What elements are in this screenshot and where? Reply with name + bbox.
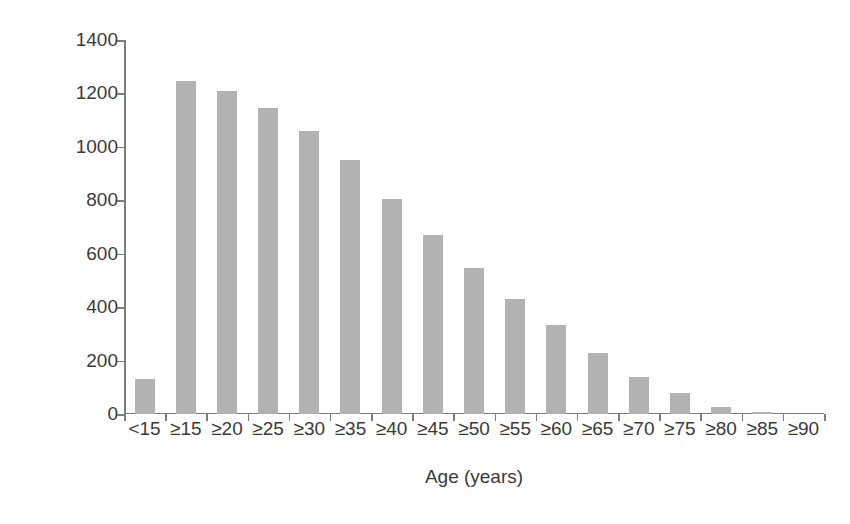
y-axis-tick-mark <box>117 254 124 256</box>
y-axis-tick-label: 800 <box>40 189 118 211</box>
bar <box>382 199 402 414</box>
y-axis-tick-mark <box>117 93 124 95</box>
x-axis-tick-mark <box>824 414 826 421</box>
x-axis-tick-label: ≥75 <box>664 418 696 440</box>
x-axis-tick-label: ≥45 <box>417 418 449 440</box>
bar <box>752 412 772 414</box>
x-axis-tick-label: ≥20 <box>211 418 243 440</box>
x-axis-tick-label: ≥50 <box>458 418 490 440</box>
x-axis-tick-label: ≥55 <box>499 418 531 440</box>
x-axis-tick-label: ≥40 <box>376 418 408 440</box>
x-axis-tick-label: ≥80 <box>705 418 737 440</box>
x-axis-tick-label: ≥25 <box>252 418 284 440</box>
bar <box>464 268 484 414</box>
bar <box>258 108 278 414</box>
y-axis-tick-label: 1000 <box>40 136 118 158</box>
y-axis-tick-label: 1400 <box>40 29 118 51</box>
x-axis-tick-label: ≥65 <box>582 418 614 440</box>
bar <box>588 353 608 414</box>
y-axis-tick-mark <box>117 147 124 149</box>
bar <box>299 131 319 414</box>
y-axis-tick-mark <box>117 361 124 363</box>
bar <box>711 407 731 414</box>
bar <box>629 377 649 414</box>
bar <box>546 325 566 414</box>
x-axis-tick-labels: <15≥15≥20≥25≥30≥35≥40≥45≥50≥55≥60≥65≥70≥… <box>124 418 824 452</box>
x-axis-tick-label: ≥70 <box>623 418 655 440</box>
x-axis-tick-label: <15 <box>128 418 160 440</box>
x-axis-tick-label: ≥85 <box>746 418 778 440</box>
y-axis-tick-label: 0 <box>40 403 118 425</box>
y-axis-tick-mark <box>117 200 124 202</box>
y-axis-tick-label: 600 <box>40 243 118 265</box>
y-axis-tick-label: 400 <box>40 296 118 318</box>
y-axis-tick-mark <box>117 307 124 309</box>
bar <box>176 81 196 414</box>
bar-chart-figure: Number of patients 020040060080010001200… <box>0 0 850 524</box>
bar <box>217 91 237 414</box>
x-axis-tick-label: ≥60 <box>541 418 573 440</box>
bar <box>423 235 443 414</box>
y-axis-tick-label: 1200 <box>40 82 118 104</box>
y-axis-tick-labels: 0200400600800100012001400 <box>40 30 118 414</box>
bar-series <box>124 40 824 414</box>
plot-area <box>124 40 824 414</box>
bar <box>135 379 155 414</box>
bar <box>505 299 525 414</box>
bar <box>340 160 360 414</box>
x-axis-tick-label: ≥15 <box>170 418 202 440</box>
bar <box>670 393 690 414</box>
x-axis-tick-label: ≥30 <box>294 418 326 440</box>
x-axis-tick-label: ≥35 <box>335 418 367 440</box>
y-axis-tick-mark <box>117 414 124 416</box>
x-axis-title: Age (years) <box>124 466 824 488</box>
y-axis-tick-label: 200 <box>40 350 118 372</box>
y-axis-tick-mark <box>117 40 124 42</box>
x-axis-tick-label: ≥90 <box>788 418 820 440</box>
